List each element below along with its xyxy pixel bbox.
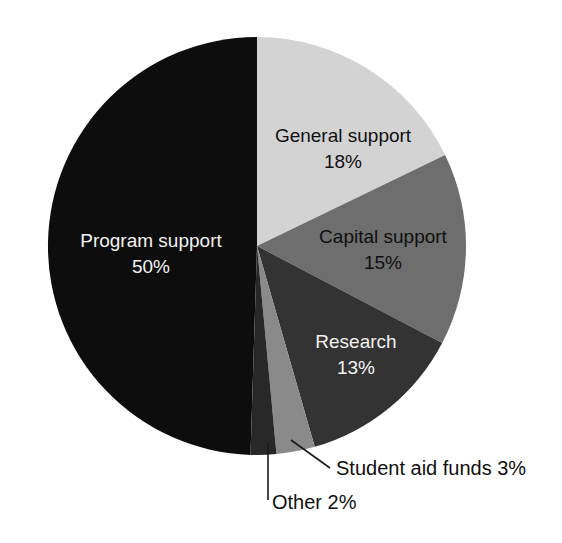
pie-chart: Program support 50% General support 18% … [0, 0, 562, 543]
label-research-name: Research [315, 331, 396, 352]
callout-other: Other 2% [272, 491, 357, 513]
label-capital-support-name: Capital support [319, 226, 448, 247]
callout-student-aid-funds: Student aid funds 3% [336, 457, 526, 479]
label-general-support-percent: 18% [324, 151, 362, 172]
label-research-percent: 13% [337, 357, 375, 378]
label-general-support-name: General support [275, 125, 412, 146]
callouts: Student aid funds 3% Other 2% [268, 440, 526, 513]
label-program-support-name: Program support [80, 230, 222, 251]
label-program-support-percent: 50% [132, 256, 170, 277]
label-capital-support-percent: 15% [364, 252, 402, 273]
pie-chart-canvas: Program support 50% General support 18% … [0, 0, 562, 543]
